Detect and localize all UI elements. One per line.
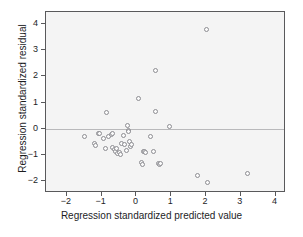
data-point	[148, 134, 153, 139]
residual-scatter-figure: −2−101234 −2−101234 Regression standardi…	[0, 0, 303, 237]
data-point	[118, 152, 123, 157]
x-tick-label: 0	[124, 196, 146, 207]
x-tick-label: −2	[55, 196, 77, 207]
x-tick-label: 1	[159, 196, 181, 207]
data-point	[121, 133, 126, 138]
x-tick-label: 4	[264, 196, 286, 207]
data-point	[205, 180, 210, 185]
data-point	[136, 96, 141, 101]
x-tick-label: 3	[229, 196, 251, 207]
y-tick-mark	[41, 75, 45, 76]
data-point	[104, 110, 109, 115]
zero-reference-line	[46, 129, 284, 130]
data-point	[126, 129, 131, 134]
x-tick-label: 2	[194, 196, 216, 207]
data-point	[245, 171, 250, 176]
data-point	[153, 68, 158, 73]
y-tick-mark	[41, 102, 45, 103]
data-point	[122, 142, 127, 147]
data-point	[158, 161, 163, 166]
plot-inner-canvas	[46, 12, 284, 191]
y-tick-mark	[41, 49, 45, 50]
y-tick-mark	[41, 180, 45, 181]
data-point	[129, 142, 134, 147]
data-point	[151, 149, 156, 154]
data-point	[140, 162, 145, 167]
y-axis-title: Regression standardized residual	[17, 4, 28, 194]
data-point	[143, 150, 148, 155]
data-point	[82, 134, 87, 139]
x-axis-title: Regression standardized predicted value	[0, 210, 303, 221]
y-tick-mark	[41, 23, 45, 24]
plot-area	[45, 11, 285, 192]
y-tick-mark	[41, 154, 45, 155]
data-point	[124, 148, 129, 153]
y-tick-mark	[41, 128, 45, 129]
data-point	[204, 27, 209, 32]
data-point	[195, 173, 200, 178]
x-tick-label: −1	[90, 196, 112, 207]
data-point	[167, 124, 172, 129]
data-point	[93, 143, 98, 148]
data-point	[103, 146, 108, 151]
data-point	[153, 109, 158, 114]
